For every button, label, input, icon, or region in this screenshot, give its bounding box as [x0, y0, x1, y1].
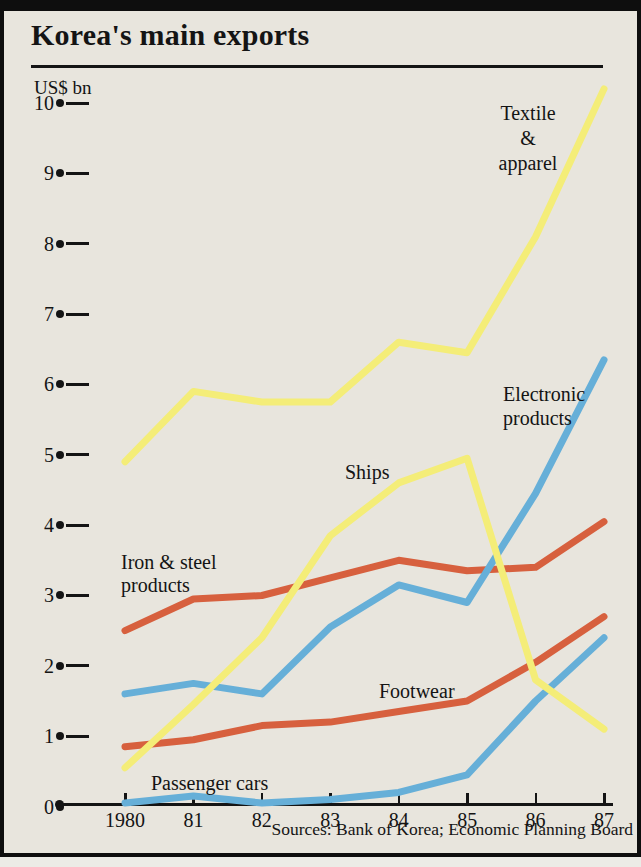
series-label-textile-apparel: Textile & apparel	[483, 101, 573, 176]
magazine-chart-page: Korea's main exports US$ bn 012345678910…	[0, 0, 641, 867]
sources-caption: Sources: Bank of Korea; Economic Plannin…	[271, 819, 633, 840]
series-label-ships: Ships	[345, 460, 389, 484]
chart-area: 012345678910 198081828384858687 Iron & s…	[0, 0, 641, 867]
series-label-passenger-cars: Passenger cars	[151, 771, 268, 795]
series-label-footwear: Footwear	[379, 679, 455, 703]
series-label-iron-steel: Iron & steel products	[121, 551, 241, 597]
series-label-electronic-products: Electronic products	[503, 382, 623, 430]
